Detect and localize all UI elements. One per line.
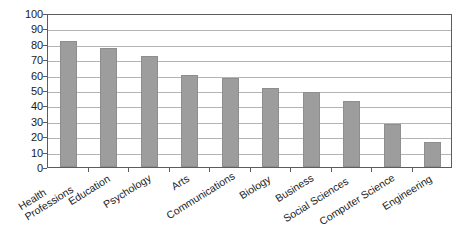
bar[interactable]: [60, 41, 77, 167]
x-axis-tick-mark: [250, 168, 251, 172]
bar[interactable]: [262, 88, 279, 167]
bar[interactable]: [100, 48, 117, 167]
y-axis-tick-label: 20: [0, 132, 43, 143]
bar[interactable]: [181, 75, 198, 167]
y-axis-tick-mark: [43, 45, 47, 46]
y-axis-tick-mark: [43, 76, 47, 77]
x-axis-tick-mark: [331, 168, 332, 172]
x-axis-tick-mark: [290, 168, 291, 172]
y-axis-tick-mark: [43, 168, 47, 169]
x-axis-tick-mark: [88, 168, 89, 172]
y-axis-tick-label: 50: [0, 86, 43, 97]
x-axis-tick-mark: [209, 168, 210, 172]
bar[interactable]: [222, 78, 239, 167]
y-axis-tick-label: 40: [0, 101, 43, 112]
bar[interactable]: [141, 56, 158, 167]
y-axis-tick-mark: [43, 60, 47, 61]
y-axis-tick-label: 90: [0, 24, 43, 35]
x-axis-category-label: Biology: [237, 173, 273, 201]
y-axis-tick-labels: 0102030405060708090100: [0, 14, 43, 168]
y-axis-tick-label: 70: [0, 55, 43, 66]
x-axis-tick-mark: [412, 168, 413, 172]
bar[interactable]: [424, 142, 441, 167]
y-axis-tick-mark: [43, 153, 47, 154]
gridline: [48, 30, 451, 31]
x-axis-tick-mark: [371, 168, 372, 172]
y-axis-tick-mark: [43, 14, 47, 15]
x-axis-category-labels: HealthProfessionsEducationPsychologyArts…: [0, 168, 472, 230]
x-axis-tick-mark: [128, 168, 129, 172]
x-axis-category-label-line: Biology: [237, 173, 273, 201]
bar-chart: 0102030405060708090100 HealthProfessions…: [0, 0, 472, 230]
y-axis-tick-label: 80: [0, 39, 43, 50]
x-axis-tick-mark: [169, 168, 170, 172]
y-axis-tick-label: 100: [0, 9, 43, 20]
y-axis-tick-mark: [43, 137, 47, 138]
y-axis-tick-mark: [43, 91, 47, 92]
x-axis-category-label-line: Arts: [169, 173, 191, 193]
bar[interactable]: [343, 101, 360, 167]
y-axis-tick-label: 60: [0, 70, 43, 81]
y-axis-tick-mark: [43, 29, 47, 30]
bar[interactable]: [303, 92, 320, 167]
gridline: [48, 46, 451, 47]
plot-area: [47, 14, 452, 168]
bar[interactable]: [384, 124, 401, 167]
y-axis-tick-label: 10: [0, 147, 43, 158]
y-axis-tick-mark: [43, 106, 47, 107]
y-axis-tick-mark: [43, 122, 47, 123]
y-axis-tick-label: 30: [0, 116, 43, 127]
x-axis-category-label: Arts: [169, 173, 191, 193]
